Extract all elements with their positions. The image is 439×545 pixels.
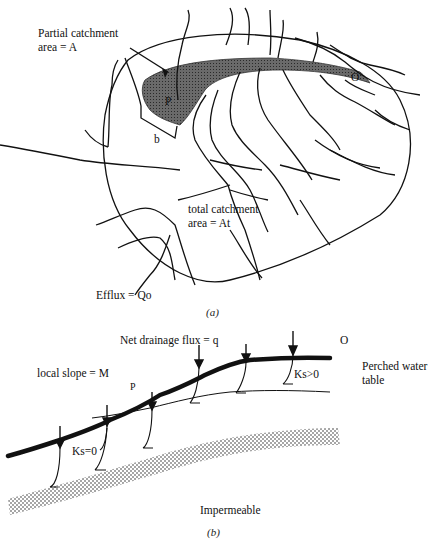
ks-positive-label: Ks>0 [294, 368, 319, 381]
catchment-boundary [103, 34, 410, 282]
figure-canvas [0, 0, 439, 545]
outlet-label-b: O [340, 334, 348, 347]
total-catchment-area-label: area = At [188, 217, 230, 230]
net-drainage-flux-label: Net drainage flux = q [120, 334, 218, 347]
flow-line [283, 70, 340, 150]
efflux-label: Efflux = Qo [96, 289, 151, 302]
caption-b: (b) [207, 526, 220, 538]
impermeable-label: Impermeable [200, 504, 261, 517]
outlet-label-a: O [351, 71, 359, 84]
flow-line [330, 150, 395, 175]
flow-line [278, 20, 283, 58]
flow-line [226, 8, 233, 45]
flow-line [125, 58, 141, 106]
point-p-label-b: P [130, 380, 136, 393]
flow-line [210, 160, 262, 170]
flow-line [345, 80, 375, 95]
flow-line [178, 185, 230, 200]
flow-line [313, 32, 318, 62]
flow-line [270, 10, 271, 55]
perched-water-label: Perched water [362, 360, 427, 373]
flow-line [315, 140, 380, 168]
flow-line [230, 190, 268, 200]
partial-catchment-label: Partial catchment [38, 27, 118, 40]
contour-width-label: b [154, 133, 160, 146]
caption-a: (a) [206, 306, 219, 318]
total-catchment-label: total catchment [188, 203, 259, 216]
partial-catchment-area-label: area = A [38, 41, 77, 54]
perched-water-table-label: table [362, 374, 384, 387]
ks-zero-label: Ks=0 [72, 445, 97, 458]
flow-line [300, 200, 330, 245]
panel-b-profile [8, 331, 340, 515]
local-slope-label: local slope = M [37, 367, 109, 380]
flow-line [85, 130, 108, 147]
point-p-label: P [165, 95, 171, 108]
flow-line [193, 95, 260, 280]
flow-line [245, 8, 249, 45]
flow-line [258, 68, 312, 180]
flow-line [108, 60, 118, 147]
flow-line [0, 145, 180, 170]
